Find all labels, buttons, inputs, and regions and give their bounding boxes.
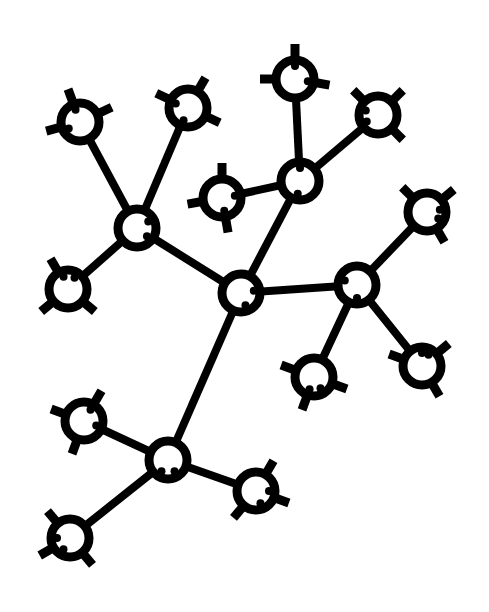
leaf-node-icon xyxy=(281,358,347,410)
notch xyxy=(341,277,349,285)
notch xyxy=(158,467,166,475)
notch xyxy=(144,218,152,226)
leaf-node-icon xyxy=(156,78,219,127)
leaf-node-icon xyxy=(41,259,95,312)
leaf-node-icon xyxy=(40,511,93,565)
notch xyxy=(353,294,361,302)
notch xyxy=(65,125,73,133)
notch xyxy=(241,301,249,309)
notch xyxy=(72,106,80,114)
leaf-node-icon xyxy=(260,44,329,98)
nodes-layer xyxy=(40,44,454,565)
notch xyxy=(71,274,79,282)
notch xyxy=(306,385,314,393)
notch xyxy=(265,487,273,495)
notch xyxy=(180,116,188,124)
leaf-node-icon xyxy=(389,344,449,397)
branch-node-icon xyxy=(149,441,187,479)
notch xyxy=(143,232,151,240)
leaf-node-icon xyxy=(234,461,289,518)
notch xyxy=(436,206,444,214)
notch xyxy=(87,406,95,414)
bond-C-E xyxy=(168,293,241,460)
notch xyxy=(317,384,325,392)
branch-node-icon xyxy=(281,162,319,200)
notch xyxy=(363,118,371,126)
branch-node-icon xyxy=(118,209,156,247)
notch xyxy=(220,207,228,215)
notch xyxy=(256,499,264,507)
notch xyxy=(60,273,68,281)
notch xyxy=(231,192,239,200)
notch xyxy=(294,190,302,198)
notch xyxy=(296,164,304,172)
notch xyxy=(362,107,370,115)
leaf-node-icon xyxy=(46,89,112,141)
notch xyxy=(304,77,312,85)
notch xyxy=(92,421,100,429)
leaf-node-icon xyxy=(51,391,103,454)
notch xyxy=(171,467,179,475)
notch xyxy=(172,100,180,108)
notch xyxy=(425,351,433,359)
core-node-icon xyxy=(222,274,260,312)
notch xyxy=(250,287,258,295)
leaf-node-icon xyxy=(188,163,241,232)
notch xyxy=(53,534,61,542)
notch xyxy=(434,215,442,223)
branch-node-icon xyxy=(338,266,376,304)
notch xyxy=(60,545,68,553)
molecule-diagram xyxy=(0,0,489,612)
notch xyxy=(291,62,299,70)
